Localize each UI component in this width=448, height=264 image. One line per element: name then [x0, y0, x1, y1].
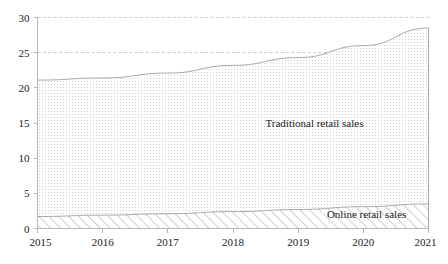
x-axis-tick-labels: 2015201620172018201920202021 — [30, 236, 437, 248]
stacked-area-chart: 051015202530 201520162017201820192020202… — [0, 0, 448, 264]
x-axis-tick-label: 2015 — [30, 236, 53, 248]
x-axis-tick-label: 2020 — [352, 236, 375, 248]
y-axis-tick-label: 25 — [19, 47, 31, 59]
chart-container: 051015202530 201520162017201820192020202… — [0, 0, 448, 264]
area-traditional-retail-sales — [38, 28, 429, 216]
x-axis-tick-label: 2019 — [287, 236, 310, 248]
series-areas — [38, 28, 429, 228]
y-axis-tick-label: 15 — [19, 117, 31, 129]
y-axis-tick-label: 5 — [24, 187, 30, 199]
y-axis-tick-label: 30 — [19, 12, 31, 24]
series-label-traditional-retail-sales: Traditional retail sales — [265, 117, 363, 129]
y-axis-tick-label: 10 — [19, 152, 31, 164]
x-axis-tick-label: 2018 — [222, 236, 245, 248]
y-axis-tick-labels: 051015202530 — [19, 12, 31, 235]
y-axis-tick-label: 0 — [24, 223, 30, 235]
x-axis-tick-label: 2016 — [92, 236, 115, 248]
x-axis-tick-label: 2021 — [415, 236, 437, 248]
series-label-online-retail-sales: Online retail sales — [327, 208, 406, 220]
y-axis-tick-label: 20 — [19, 82, 31, 94]
x-axis-tick-label: 2017 — [157, 236, 180, 248]
